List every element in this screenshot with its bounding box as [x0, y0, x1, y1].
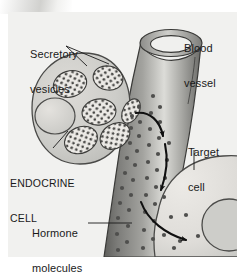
secretory-vesicles-label-line1: Secretory: [30, 49, 78, 61]
target-cell-label-line1: Target: [188, 147, 219, 159]
secretory-vesicles-label: Secretory vesicles: [30, 26, 78, 118]
hormone-molecules-label: Hormone molecules: [32, 205, 82, 276]
endocrine-cell-label-line1: ENDOCRINE: [10, 178, 75, 190]
blood-vessel-label-line2: vessel: [184, 78, 216, 90]
hormone-molecules-label-line2: molecules: [32, 263, 82, 275]
target-cell-label: Target cell: [188, 124, 219, 216]
hormone-molecules-label-line1: Hormone: [32, 228, 82, 240]
secretory-vesicles-label-line2: vesicles: [30, 84, 78, 96]
target-cell-label-line2: cell: [188, 182, 219, 194]
blood-vessel-label-line1: Blood: [184, 43, 216, 55]
blood-vessel-label: Blood vessel: [184, 20, 216, 112]
